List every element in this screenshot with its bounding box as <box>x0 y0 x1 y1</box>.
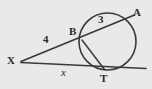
tangent-line-xt <box>21 63 146 69</box>
point-label-b: B <box>69 26 76 37</box>
point-label-x: X <box>7 55 15 66</box>
measure-label-ba: 3 <box>98 14 104 25</box>
circle-shape <box>79 13 136 70</box>
point-label-a: A <box>133 7 141 18</box>
geometry-figure: X B A T 4 3 x <box>0 0 152 89</box>
measure-label-xt: x <box>61 67 66 78</box>
measure-label-xb: 4 <box>43 34 49 45</box>
point-label-t: T <box>100 73 107 84</box>
figure-canvas <box>0 0 152 89</box>
secant-line-xa <box>21 15 135 62</box>
